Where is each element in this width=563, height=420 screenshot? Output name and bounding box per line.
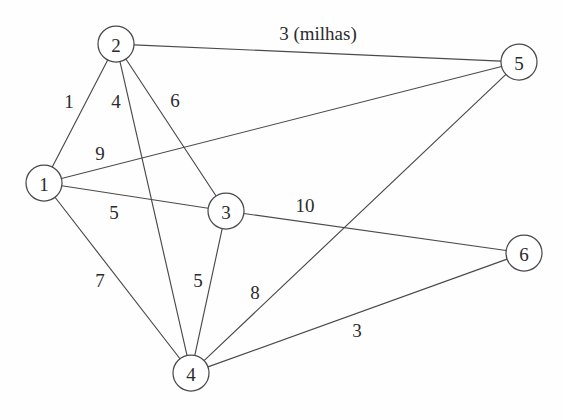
node-5[interactable]: 5 bbox=[501, 44, 537, 80]
graph-diagram: 123456 1463 (milhas)95751083 bbox=[0, 0, 563, 420]
edge-2-5 bbox=[134, 45, 501, 61]
edge-1-3 bbox=[62, 186, 208, 209]
node-6[interactable]: 6 bbox=[506, 235, 542, 271]
edge-weight-2-3: 6 bbox=[170, 91, 180, 110]
node-4[interactable]: 4 bbox=[173, 355, 209, 391]
node-label-5: 5 bbox=[514, 53, 524, 74]
edge-weight-1-2: 1 bbox=[64, 92, 74, 111]
edge-2-3 bbox=[126, 59, 216, 196]
edge-weight-2-5: 3 (milhas) bbox=[279, 24, 357, 43]
node-label-6: 6 bbox=[519, 244, 529, 265]
nodes-layer: 123456 bbox=[26, 26, 542, 391]
graph-svg: 123456 bbox=[0, 0, 563, 420]
edge-weight-4-5: 8 bbox=[250, 283, 260, 302]
node-1[interactable]: 1 bbox=[26, 165, 62, 201]
edge-4-5 bbox=[204, 74, 506, 360]
edge-weight-1-3: 5 bbox=[109, 203, 119, 222]
node-label-1: 1 bbox=[39, 174, 49, 195]
node-3[interactable]: 3 bbox=[208, 193, 244, 229]
node-label-2: 2 bbox=[111, 35, 121, 56]
edge-3-6 bbox=[244, 214, 506, 251]
edge-weight-1-4: 7 bbox=[95, 271, 105, 290]
edge-weight-4-6: 3 bbox=[352, 321, 362, 340]
edge-1-5 bbox=[61, 66, 501, 178]
edge-weight-3-4: 5 bbox=[193, 271, 203, 290]
node-label-4: 4 bbox=[186, 364, 196, 385]
edge-weight-2-4: 4 bbox=[111, 92, 121, 111]
edge-weight-1-5: 9 bbox=[95, 144, 105, 163]
edge-3-4 bbox=[195, 229, 222, 356]
node-2[interactable]: 2 bbox=[98, 26, 134, 62]
edge-weight-3-6: 10 bbox=[296, 196, 315, 215]
node-label-3: 3 bbox=[221, 202, 231, 223]
edge-4-6 bbox=[208, 259, 507, 367]
